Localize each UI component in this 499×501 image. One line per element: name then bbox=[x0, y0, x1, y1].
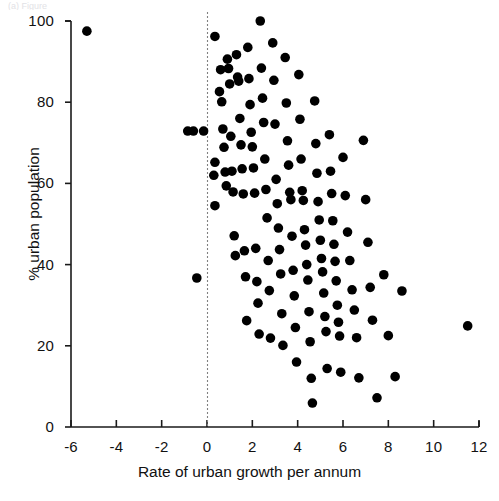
data-point bbox=[359, 136, 369, 146]
data-point bbox=[314, 215, 324, 225]
y-tick-label: 20 bbox=[8, 338, 54, 353]
data-point bbox=[283, 136, 293, 146]
data-point bbox=[320, 312, 330, 322]
data-point bbox=[278, 341, 288, 351]
data-point bbox=[219, 142, 229, 152]
data-point bbox=[287, 231, 297, 241]
data-point bbox=[224, 64, 234, 74]
data-point bbox=[258, 93, 268, 103]
data-point bbox=[340, 191, 350, 201]
data-point bbox=[274, 223, 284, 233]
data-point bbox=[271, 175, 281, 185]
data-point bbox=[308, 398, 318, 408]
scatter-plot-figure: (a) Figure 020406080100 -6-4-2024681012 … bbox=[0, 0, 499, 501]
data-point bbox=[331, 276, 341, 286]
data-point bbox=[286, 195, 296, 205]
data-point bbox=[210, 157, 220, 167]
y-tick-label: 100 bbox=[8, 13, 54, 28]
data-point bbox=[189, 126, 199, 136]
data-point bbox=[235, 114, 245, 124]
data-point bbox=[304, 307, 314, 317]
data-point bbox=[333, 300, 343, 310]
data-point bbox=[350, 305, 360, 315]
data-point bbox=[363, 237, 373, 247]
data-point bbox=[288, 265, 298, 275]
data-point bbox=[325, 130, 335, 140]
x-tick-label: 4 bbox=[278, 439, 318, 454]
data-points-group bbox=[82, 16, 472, 408]
data-point bbox=[317, 254, 327, 264]
x-axis-label: Rate of urban growth per annum bbox=[0, 463, 499, 481]
x-tick-label: -4 bbox=[96, 439, 136, 454]
data-point bbox=[292, 357, 302, 367]
data-point bbox=[291, 323, 301, 333]
data-point bbox=[289, 291, 299, 301]
data-point bbox=[322, 364, 332, 374]
data-point bbox=[311, 139, 321, 149]
data-point bbox=[296, 154, 306, 164]
data-point bbox=[253, 298, 263, 308]
data-point bbox=[275, 245, 285, 255]
data-point bbox=[330, 257, 340, 267]
data-point bbox=[312, 168, 322, 178]
x-tick-label: -6 bbox=[51, 439, 91, 454]
data-point bbox=[215, 87, 225, 97]
data-point bbox=[252, 277, 262, 287]
data-point bbox=[338, 153, 348, 163]
data-point bbox=[295, 114, 305, 124]
data-point bbox=[390, 372, 400, 382]
data-point bbox=[299, 196, 309, 206]
x-tick-label: 8 bbox=[368, 439, 408, 454]
data-point bbox=[263, 256, 273, 266]
data-point bbox=[228, 187, 238, 197]
x-tick-label: -2 bbox=[142, 439, 182, 454]
data-point bbox=[265, 286, 275, 296]
data-point bbox=[397, 286, 407, 296]
data-point bbox=[229, 231, 239, 241]
data-point bbox=[368, 315, 378, 325]
data-point bbox=[270, 119, 280, 129]
y-tick-label: 0 bbox=[8, 419, 54, 434]
data-point bbox=[379, 270, 389, 280]
data-point bbox=[463, 321, 473, 331]
data-point bbox=[232, 50, 242, 60]
data-point bbox=[328, 216, 338, 226]
data-point bbox=[277, 309, 287, 319]
data-point bbox=[347, 285, 357, 295]
data-point bbox=[329, 240, 339, 250]
data-point bbox=[272, 199, 282, 209]
data-point bbox=[250, 188, 260, 198]
data-point bbox=[319, 288, 329, 298]
y-axis-ticks bbox=[65, 21, 71, 427]
plot-canvas bbox=[0, 0, 499, 501]
data-point bbox=[254, 329, 264, 339]
x-tick-label: 10 bbox=[414, 439, 454, 454]
x-tick-label: 0 bbox=[187, 439, 227, 454]
data-point bbox=[225, 79, 235, 89]
data-point bbox=[210, 201, 220, 211]
data-point bbox=[282, 98, 292, 108]
data-point bbox=[352, 333, 362, 343]
x-tick-label: 2 bbox=[232, 439, 272, 454]
data-point bbox=[300, 225, 310, 235]
data-point bbox=[301, 240, 311, 250]
data-point bbox=[384, 331, 394, 341]
data-point bbox=[251, 244, 261, 254]
data-point bbox=[316, 235, 326, 245]
data-point bbox=[345, 256, 355, 266]
data-point bbox=[306, 373, 316, 383]
data-point bbox=[82, 26, 92, 36]
data-point bbox=[209, 170, 219, 180]
data-point bbox=[242, 316, 252, 326]
x-axis-ticks bbox=[71, 420, 479, 427]
data-point bbox=[372, 393, 382, 403]
data-point bbox=[276, 269, 286, 279]
data-point bbox=[354, 373, 364, 383]
data-point bbox=[297, 186, 307, 196]
data-point bbox=[237, 164, 247, 174]
data-point bbox=[260, 154, 270, 164]
data-point bbox=[280, 53, 290, 63]
data-point bbox=[241, 272, 251, 282]
data-point bbox=[231, 251, 241, 261]
data-point bbox=[262, 213, 272, 223]
